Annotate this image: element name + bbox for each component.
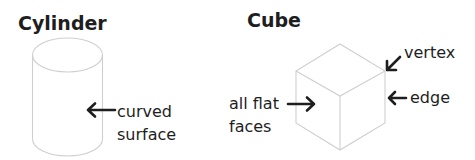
shapes-diagram: Cylinder curved surface Cube vertex ed	[0, 0, 475, 160]
edge-label: edge	[410, 88, 450, 107]
cylinder-shape	[33, 38, 103, 156]
faces-label-line2: faces	[229, 117, 271, 136]
cube-shape	[296, 44, 385, 150]
cube-title: Cube	[247, 9, 301, 31]
curved-surface-arrow-icon	[88, 104, 115, 117]
cylinder-section: Cylinder curved surface	[18, 12, 176, 156]
vertex-arrow-icon	[387, 57, 400, 70]
vertex-label: vertex	[404, 43, 455, 62]
edge-arrow-icon	[389, 92, 406, 104]
curved-surface-label-line2: surface	[117, 125, 176, 144]
cube-section: Cube vertex edge all flat faces	[229, 9, 455, 150]
cylinder-title: Cylinder	[18, 12, 107, 34]
faces-arrow-icon	[288, 98, 314, 111]
curved-surface-label-line1: curved	[117, 102, 172, 121]
faces-label-line1: all flat	[229, 94, 279, 113]
